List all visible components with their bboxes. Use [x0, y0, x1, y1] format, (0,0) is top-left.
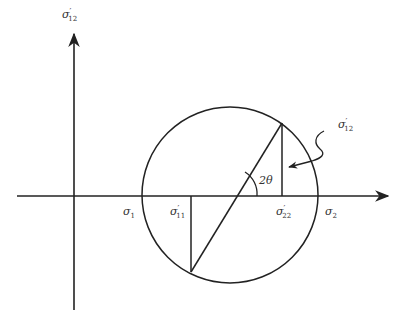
angle-label: 2θ: [258, 174, 273, 187]
mohr-circle-diagram: σ′12 σ1 σ′11 σ′22 σ2 σ′12 2θ: [0, 0, 402, 324]
sigma2-label: σ2: [325, 205, 337, 220]
angle-arc: [245, 172, 257, 196]
mohr-circle: [142, 107, 318, 283]
sigma11-prime-label: σ′11: [170, 203, 185, 220]
vertical-axis-label: σ′12: [62, 6, 77, 23]
sigma12-prime-callout-label: σ′12: [338, 116, 353, 133]
sigma22-prime-label: σ′22: [276, 203, 291, 220]
callout-arrow: [289, 131, 324, 167]
sigma1-label: σ1: [123, 205, 135, 220]
diameter-line: [191, 123, 282, 272]
